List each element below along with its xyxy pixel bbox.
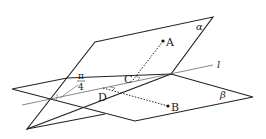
segment-DB: [103, 88, 168, 106]
label-alpha: α: [196, 21, 203, 32]
angle-numerator: π: [78, 71, 84, 81]
label-beta: β: [219, 89, 226, 100]
label-line-l: l: [217, 59, 220, 70]
label-D: D: [98, 91, 107, 104]
plane-alpha: [27, 17, 213, 129]
label-C: C: [124, 73, 132, 86]
dihedral-diagram: A B C D α β l π 4: [0, 0, 266, 139]
label-B: B: [171, 101, 179, 114]
point-A: [161, 39, 164, 42]
point-B: [166, 104, 169, 107]
label-A: A: [165, 36, 175, 49]
angle-denominator: 4: [78, 82, 84, 92]
